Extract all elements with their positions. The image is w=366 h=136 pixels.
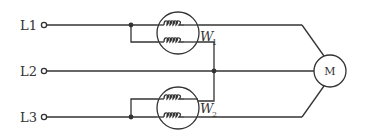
wattmeter-w1: W 1 [157,12,217,54]
terminal-l1-icon [41,22,46,27]
wattmeter-circle-icon [157,12,199,54]
label-l3: L3 [20,110,37,125]
wattmeter-w2-subscript: 2 [212,110,217,119]
terminal-l3-icon [41,114,46,119]
wattmeter-circle-icon [157,87,199,129]
junction-dot-icon [129,115,134,120]
wattmeter-circuit-diagram: L1 L2 L3 [0,0,366,136]
motor: M [314,55,346,87]
junction-dot-icon [129,23,134,28]
wattmeter-w2: W 2 [157,87,217,129]
wattmeter-w1-subscript: 1 [212,38,217,47]
wire-l2 [47,69,314,74]
motor-label: M [324,65,335,78]
label-l2: L2 [20,64,37,79]
terminal-l2-icon [41,68,46,73]
label-l1: L1 [20,18,37,33]
